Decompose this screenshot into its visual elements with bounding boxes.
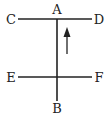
label-e: E	[6, 70, 16, 85]
diagram: A C D E F B	[0, 0, 111, 118]
arrow-up-icon	[64, 27, 71, 54]
label-c: C	[6, 12, 16, 27]
label-b: B	[52, 101, 62, 116]
label-d: D	[94, 12, 104, 27]
label-a: A	[51, 2, 62, 17]
label-f: F	[94, 70, 103, 85]
